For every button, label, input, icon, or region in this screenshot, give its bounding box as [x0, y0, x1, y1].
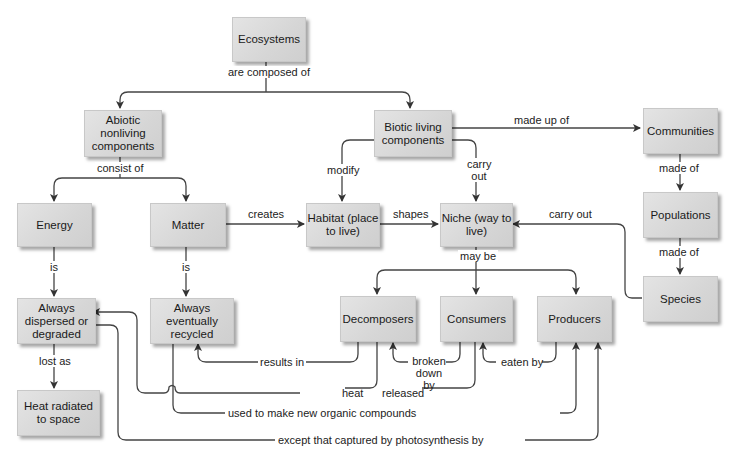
node-label: Producers — [548, 313, 600, 326]
node-label: Ecosystems — [238, 33, 300, 46]
edge-label-eaten-by: eaten by — [499, 356, 545, 368]
edge-label-broken-down-by: broken down by — [408, 355, 450, 391]
node-matter: Matter — [150, 203, 226, 247]
edge-label-is-energy: is — [48, 261, 60, 273]
node-label: Decomposers — [343, 313, 414, 326]
edge-label-made-of-2: made of — [657, 246, 701, 258]
edge-label-consist-of: consist of — [95, 162, 145, 174]
node-label: Always eventually recycled — [155, 302, 229, 341]
node-label: Niche (way to live) — [441, 212, 512, 238]
node-decomposers: Decomposers — [340, 296, 416, 342]
node-populations: Populations — [643, 192, 718, 238]
node-recycled: Always eventually recycled — [150, 298, 234, 344]
node-label: Habitat (place to live) — [307, 212, 379, 238]
node-label: Heat radiated to space — [22, 400, 95, 426]
node-ecosystems: Ecosystems — [232, 17, 306, 62]
node-habitat: Habitat (place to live) — [306, 203, 380, 247]
node-biotic: Biotic living components — [374, 110, 452, 157]
edge-label-made-up-of: made up of — [512, 114, 571, 126]
node-communities: Communities — [643, 108, 718, 154]
node-label: Populations — [650, 209, 710, 222]
node-label: Always dispersed or degraded — [20, 302, 93, 341]
edge-label-results-in: results in — [258, 356, 306, 368]
edge-label-released: released — [380, 387, 426, 399]
node-label: Consumers — [447, 313, 506, 326]
node-label: Abiotic nonliving components — [87, 114, 159, 153]
node-label: Energy — [36, 219, 72, 232]
edge-label-heat: heat — [340, 387, 365, 399]
node-dispersed: Always dispersed or degraded — [17, 298, 96, 344]
edge-label-may-be: may be — [458, 250, 498, 262]
edge-label-shapes: shapes — [391, 208, 430, 220]
node-producers: Producers — [537, 296, 612, 342]
edge-label-creates: creates — [246, 208, 286, 220]
node-label: Biotic living components — [377, 121, 449, 147]
edge-label-is-matter: is — [180, 261, 192, 273]
edge-label-modify: modify — [325, 164, 361, 176]
edge-label-lost-as: lost as — [37, 355, 73, 367]
node-species: Species — [643, 276, 718, 322]
node-label: Communities — [647, 125, 714, 138]
node-label: Species — [660, 293, 701, 306]
node-niche: Niche (way to live) — [440, 203, 513, 247]
edge-label-used-to-make: used to make new organic compounds — [226, 407, 418, 419]
edge-label-carry-out-biotic: carry out — [465, 158, 493, 182]
edge-label-carry-out-species: carry out — [547, 208, 594, 220]
edge-label-made-of-1: made of — [657, 162, 701, 174]
edge-label-except-captured: except that captured by photosynthesis b… — [276, 434, 485, 446]
edge-label-are-composed-of: are composed of — [226, 66, 312, 78]
node-label: Matter — [172, 219, 205, 232]
node-energy: Energy — [17, 203, 92, 247]
node-consumers: Consumers — [440, 296, 513, 342]
node-heat-space: Heat radiated to space — [17, 390, 100, 436]
node-abiotic: Abiotic nonliving components — [84, 110, 162, 157]
